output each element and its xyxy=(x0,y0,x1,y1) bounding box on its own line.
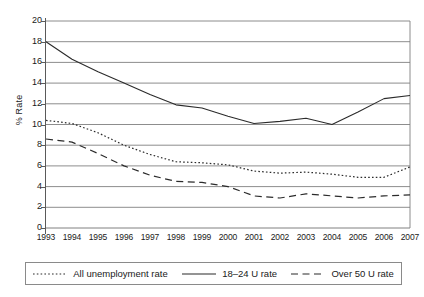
y-axis-tick-mark xyxy=(41,145,46,146)
y-axis-tick-mark xyxy=(41,21,46,22)
y-axis-tick-mark xyxy=(41,83,46,84)
series-line xyxy=(46,139,410,198)
x-axis-tick-label: 2007 xyxy=(390,233,424,242)
series-line xyxy=(46,42,410,125)
legend-swatch-dashed xyxy=(291,270,325,278)
y-axis-tick-label: 6 xyxy=(16,161,42,170)
legend-swatch-solid xyxy=(182,270,216,278)
legend-item: 18–24 U rate xyxy=(182,268,277,279)
legend-label: 18–24 U rate xyxy=(222,268,277,279)
y-axis-tick-mark xyxy=(41,104,46,105)
y-axis-tick-label: 18 xyxy=(16,37,42,46)
legend-item: All unemployment rate xyxy=(33,268,168,279)
y-axis-tick-mark xyxy=(41,125,46,126)
series-lines xyxy=(46,21,410,228)
y-axis-tick-label: 2 xyxy=(16,202,42,211)
y-axis-tick-mark xyxy=(41,42,46,43)
y-axis-tick-mark xyxy=(41,207,46,208)
legend-swatch-dotted xyxy=(33,270,67,278)
y-axis-tick-label: 16 xyxy=(16,57,42,66)
y-axis-tick-mark xyxy=(41,187,46,188)
y-axis-tick-labels: 02468101214161820 xyxy=(12,0,42,297)
chart-legend: All unemployment rate18–24 U rateOver 50… xyxy=(25,262,402,285)
y-axis-tick-label: 14 xyxy=(16,78,42,87)
legend-item: Over 50 U rate xyxy=(291,268,393,279)
y-axis-tick-label: 10 xyxy=(16,120,42,129)
y-axis-tick-label: 0 xyxy=(16,223,42,232)
y-axis-tick-mark xyxy=(41,228,46,229)
series-line xyxy=(46,120,410,177)
plot-area xyxy=(46,21,410,228)
chart-figure: % Rate 02468101214161820 199319941995199… xyxy=(0,0,424,297)
y-axis-tick-mark xyxy=(41,62,46,63)
legend-label: Over 50 U rate xyxy=(331,268,393,279)
legend-label: All unemployment rate xyxy=(73,268,168,279)
y-axis-tick-label: 4 xyxy=(16,182,42,191)
y-axis-tick-label: 20 xyxy=(16,16,42,25)
y-axis-tick-mark xyxy=(41,166,46,167)
y-axis-tick-label: 12 xyxy=(16,99,42,108)
y-axis-tick-label: 8 xyxy=(16,140,42,149)
